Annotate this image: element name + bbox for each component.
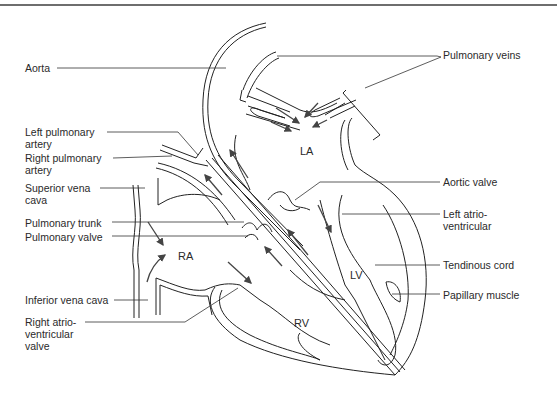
heart-diagram: LA RA LV RV Aorta Left pulmonary artery …	[0, 0, 557, 395]
svg-text:Tendinous cord: Tendinous cord	[443, 259, 514, 271]
arrow-icon	[228, 262, 251, 283]
arrow-icon	[288, 230, 308, 255]
svg-text:cava: cava	[25, 194, 47, 206]
svg-text:Superior vena: Superior vena	[25, 182, 91, 194]
arrow-icon	[148, 222, 163, 245]
inferior-vena-cava-shape	[156, 278, 260, 315]
label-pulmonary-valve: Pulmonary valve	[25, 231, 248, 243]
label-right-pulmonary-artery: Right pulmonary artery	[25, 152, 172, 176]
aorta-outline	[203, 23, 303, 250]
chamber-label-ra: RA	[178, 250, 194, 262]
left-pulmonary-artery-shape	[160, 145, 208, 166]
label-inferior-vena-cava: Inferior vena cava	[25, 294, 148, 306]
svg-text:Pulmonary veins: Pulmonary veins	[443, 49, 521, 61]
svg-text:ventricular: ventricular	[443, 220, 492, 232]
svg-text:valve: valve	[25, 340, 50, 352]
arrow-icon	[265, 247, 282, 266]
aortic-valve-shape	[268, 192, 310, 211]
chamber-label-rv: RV	[294, 317, 310, 329]
chamber-label-lv: LV	[350, 269, 363, 281]
svg-text:Left pulmonary: Left pulmonary	[25, 126, 95, 138]
svg-text:artery: artery	[25, 138, 53, 150]
label-pulmonary-veins: Pulmonary veins	[277, 49, 521, 88]
arrow-icon	[313, 120, 327, 127]
label-tendinous-cord: Tendinous cord	[375, 259, 514, 271]
blood-flow-arrows	[147, 103, 331, 283]
left-ventricle-shape	[320, 195, 426, 375]
svg-text:Aorta: Aorta	[25, 62, 50, 74]
svg-text:Left atrio-: Left atrio-	[443, 208, 488, 220]
superior-vena-cava-shape	[133, 178, 220, 318]
svg-text:Inferior vena cava: Inferior vena cava	[25, 294, 109, 306]
svg-text:ventricular: ventricular	[25, 328, 74, 340]
svg-text:Pulmonary valve: Pulmonary valve	[25, 231, 103, 243]
pulmonary-veins-shapes	[240, 52, 380, 140]
svg-text:Right atrio-: Right atrio-	[25, 316, 77, 328]
label-aorta: Aorta	[25, 62, 226, 74]
svg-text:Aortic valve: Aortic valve	[443, 176, 497, 188]
pulmonary-valve-shape	[242, 223, 272, 240]
chamber-label-la: LA	[300, 145, 314, 157]
svg-text:artery: artery	[25, 164, 53, 176]
svg-text:Papillary muscle: Papillary muscle	[443, 289, 520, 301]
label-left-pulmonary-artery: Left pulmonary artery	[25, 126, 198, 155]
svg-text:Pulmonary trunk: Pulmonary trunk	[25, 217, 102, 229]
arrow-icon	[205, 175, 222, 195]
arrow-icon	[318, 205, 331, 232]
arrow-icon	[276, 108, 299, 123]
svg-text:Right pulmonary: Right pulmonary	[25, 152, 102, 164]
left-atrium-wall	[235, 118, 395, 195]
label-superior-vena-cava: Superior vena cava	[25, 182, 145, 206]
label-papillary-muscle: Papillary muscle	[392, 289, 520, 301]
